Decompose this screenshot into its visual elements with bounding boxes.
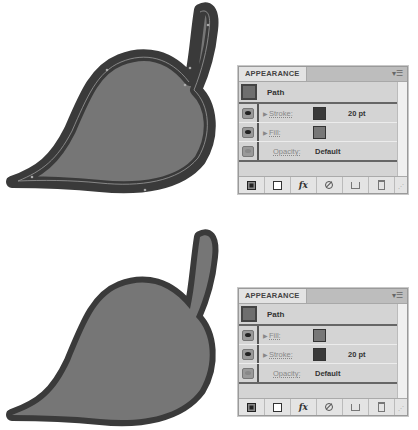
visibility-toggle[interactable] bbox=[239, 142, 259, 160]
row-stroke[interactable]: ▶ Stroke: 20 pt bbox=[239, 345, 397, 364]
opacity-value: Default bbox=[315, 147, 340, 156]
stroke-swatch[interactable] bbox=[313, 107, 326, 120]
clear-icon bbox=[325, 403, 333, 411]
stroke-swatch[interactable] bbox=[313, 348, 326, 361]
stroke-label[interactable]: Stroke: bbox=[269, 350, 317, 359]
fill-label[interactable]: Fill: bbox=[269, 128, 317, 137]
add-new-stroke-button[interactable] bbox=[239, 177, 265, 193]
add-effect-button[interactable]: fx bbox=[291, 399, 317, 415]
path-thumbnail bbox=[241, 306, 257, 322]
delete-item-button[interactable] bbox=[369, 177, 395, 193]
new-fill-icon bbox=[273, 403, 282, 412]
add-new-fill-button[interactable] bbox=[265, 399, 291, 415]
eye-icon bbox=[242, 349, 254, 360]
object-label: Path bbox=[267, 310, 284, 319]
opacity-value: Default bbox=[315, 369, 340, 378]
panel-tabbar: APPEARANCE ▾☰ bbox=[239, 289, 407, 304]
visibility-toggle[interactable] bbox=[239, 104, 259, 122]
trash-icon bbox=[378, 402, 385, 412]
row-stroke[interactable]: ▶ Stroke: 20 pt bbox=[239, 104, 397, 123]
resize-grip[interactable]: ⋰ bbox=[395, 177, 407, 193]
eye-icon bbox=[242, 108, 254, 119]
row-path[interactable]: Path bbox=[239, 304, 397, 326]
duplicate-icon bbox=[351, 182, 360, 189]
grip-icon: ⋰ bbox=[398, 404, 404, 411]
panel-tabbar: APPEARANCE ▾☰ bbox=[239, 67, 407, 82]
appearance-panel: APPEARANCE ▾☰ Path ▶ Stroke: 20 pt ▶ Fil… bbox=[238, 66, 408, 194]
fx-icon: fx bbox=[299, 180, 308, 190]
resize-grip[interactable]: ⋰ bbox=[395, 399, 407, 415]
fx-icon: fx bbox=[299, 402, 308, 412]
row-fill[interactable]: ▶ Fill: bbox=[239, 123, 397, 142]
trash-icon bbox=[378, 180, 385, 190]
tab-appearance[interactable]: APPEARANCE bbox=[239, 289, 307, 303]
appearance-panel: APPEARANCE ▾☰ Path ▶ Fill: ▶ Stroke: 20 … bbox=[238, 288, 408, 416]
panel-menu-icon[interactable]: ▾☰ bbox=[392, 70, 403, 78]
add-effect-button[interactable]: fx bbox=[291, 177, 317, 193]
opacity-label[interactable]: Opacity: bbox=[273, 369, 311, 378]
visibility-toggle[interactable] bbox=[239, 326, 259, 344]
opacity-label[interactable]: Opacity: bbox=[273, 147, 311, 156]
eye-icon bbox=[242, 127, 254, 138]
row-fill[interactable]: ▶ Fill: bbox=[239, 326, 397, 345]
object-label: Path bbox=[267, 88, 284, 97]
panel-footer: fx ⋰ bbox=[239, 398, 407, 415]
new-stroke-icon bbox=[247, 403, 256, 412]
clear-appearance-button[interactable] bbox=[317, 177, 343, 193]
stroke-weight[interactable]: 20 pt bbox=[348, 109, 366, 118]
eye-icon bbox=[242, 146, 254, 157]
duplicate-icon bbox=[351, 404, 360, 411]
clear-icon bbox=[325, 181, 333, 189]
scrollbar[interactable] bbox=[397, 304, 407, 398]
add-new-stroke-button[interactable] bbox=[239, 399, 265, 415]
row-opacity[interactable]: Opacity: Default bbox=[239, 364, 397, 384]
path-thumbnail bbox=[241, 84, 257, 100]
visibility-toggle[interactable] bbox=[239, 345, 259, 363]
fill-swatch[interactable] bbox=[313, 329, 326, 342]
duplicate-item-button[interactable] bbox=[343, 399, 369, 415]
stroke-label[interactable]: Stroke: bbox=[269, 109, 317, 118]
expand-triangle-icon[interactable]: ▶ bbox=[263, 110, 268, 117]
eye-icon bbox=[242, 368, 254, 379]
tab-appearance[interactable]: APPEARANCE bbox=[239, 67, 307, 81]
stroke-weight[interactable]: 20 pt bbox=[348, 350, 366, 359]
new-stroke-icon bbox=[247, 181, 256, 190]
figure-top: APPEARANCE ▾☰ Path ▶ Stroke: 20 pt ▶ Fil… bbox=[0, 0, 418, 200]
add-new-fill-button[interactable] bbox=[265, 177, 291, 193]
fill-label[interactable]: Fill: bbox=[269, 331, 317, 340]
panel-footer: fx ⋰ bbox=[239, 176, 407, 193]
panel-menu-icon[interactable]: ▾☰ bbox=[392, 292, 403, 300]
scrollbar[interactable] bbox=[397, 82, 407, 176]
row-opacity[interactable]: Opacity: Default bbox=[239, 142, 397, 162]
visibility-toggle[interactable] bbox=[239, 123, 259, 141]
new-fill-icon bbox=[273, 181, 282, 190]
row-path[interactable]: Path bbox=[239, 82, 397, 104]
figure-bottom: APPEARANCE ▾☰ Path ▶ Fill: ▶ Stroke: 20 … bbox=[0, 225, 418, 430]
fill-swatch[interactable] bbox=[313, 126, 326, 139]
delete-item-button[interactable] bbox=[369, 399, 395, 415]
expand-triangle-icon[interactable]: ▶ bbox=[263, 332, 268, 339]
expand-triangle-icon[interactable]: ▶ bbox=[263, 351, 268, 358]
leaf-shape-selected[interactable] bbox=[0, 0, 235, 195]
panel-spacer bbox=[239, 384, 397, 398]
eye-icon bbox=[242, 330, 254, 341]
leaf-shape-fill-on-top[interactable] bbox=[0, 225, 235, 430]
grip-icon: ⋰ bbox=[398, 182, 404, 189]
duplicate-item-button[interactable] bbox=[343, 177, 369, 193]
expand-triangle-icon[interactable]: ▶ bbox=[263, 129, 268, 136]
clear-appearance-button[interactable] bbox=[317, 399, 343, 415]
visibility-toggle[interactable] bbox=[239, 364, 259, 382]
panel-spacer bbox=[239, 162, 397, 176]
